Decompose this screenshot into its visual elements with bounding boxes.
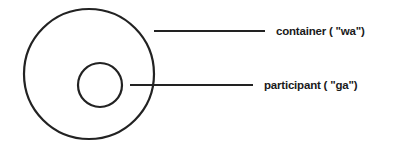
- container-circle: [24, 9, 154, 139]
- participant-label: participant ( "ga"): [264, 79, 358, 91]
- container-label: container ( "wa"): [276, 25, 365, 37]
- container-participant-diagram: container ( "wa") participant ( "ga"): [0, 0, 409, 149]
- participant-circle: [78, 63, 122, 107]
